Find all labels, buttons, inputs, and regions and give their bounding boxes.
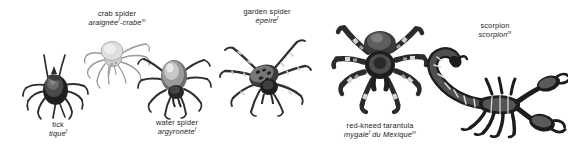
garden-spider-figure (217, 32, 317, 118)
gender-marker: f (277, 15, 278, 20)
caption-crab-spider: crab spider araignéef-crabem (70, 10, 164, 27)
gender-marker: f (195, 126, 196, 131)
caption-tick: tick tiquef (18, 121, 98, 138)
specimen-scorpion: scorpion scorpionm (412, 22, 562, 138)
scorpion-french-name: scorpionm (450, 31, 540, 40)
gender-marker: m (142, 17, 146, 22)
tick-french-name: tiquef (18, 130, 98, 139)
garden-spider-french-name: épeiref (215, 17, 319, 26)
specimen-garden-spider: garden spider épeiref (215, 8, 319, 120)
scorpion-figure (412, 44, 562, 138)
crab-spider-french-name: araignéef-crabem (70, 19, 164, 28)
gender-marker: f (66, 128, 67, 133)
gender-marker: m (508, 29, 512, 34)
water-spider-french-name: argyronètef (133, 128, 221, 137)
caption-garden-spider: garden spider épeiref (215, 8, 319, 25)
caption-scorpion: scorpion scorpionm (450, 22, 540, 39)
specimen-water-spider: water spider argyronètef (133, 48, 221, 122)
caption-water-spider: water spider argyronètef (133, 119, 221, 136)
water-spider-figure (133, 48, 221, 122)
arachnids-illustration-plate: tick tiquef crab spider araignéef-crabem (0, 0, 568, 161)
